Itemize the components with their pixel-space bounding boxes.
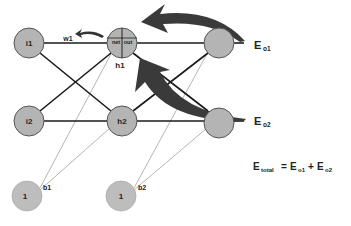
svg-text:o1: o1	[263, 45, 271, 52]
node-o1	[204, 28, 234, 58]
error-label-o1: E o1	[254, 39, 271, 52]
node-i2: i2	[14, 106, 44, 136]
svg-text:=: =	[281, 161, 287, 172]
neural-network-diagram: i1 i2 net out h1 h2 1 b1 1 b2 w1 E o1 E	[0, 0, 351, 226]
svg-text:E: E	[317, 161, 324, 172]
svg-text:o2: o2	[263, 121, 271, 128]
svg-text:h2: h2	[117, 117, 127, 126]
node-o2	[204, 108, 234, 138]
svg-text:i2: i2	[26, 117, 33, 126]
svg-text:+: +	[308, 161, 314, 172]
svg-text:total: total	[261, 167, 274, 173]
svg-text:b1: b1	[43, 184, 51, 191]
svg-text:o1: o1	[298, 167, 306, 173]
w1-arrow-icon	[75, 29, 104, 38]
node-bias-1: 1 b1	[12, 181, 51, 211]
svg-text:E: E	[254, 39, 261, 51]
svg-text:E: E	[254, 115, 261, 127]
svg-text:o2: o2	[325, 167, 333, 173]
total-error-equation: E total = E o1 + E o2	[253, 161, 333, 173]
svg-text:i1: i1	[26, 39, 33, 48]
weight-label-w1: w1	[62, 35, 72, 42]
svg-text:out: out	[124, 39, 133, 45]
node-h2: h2	[107, 106, 137, 136]
svg-text:1: 1	[23, 192, 28, 201]
svg-text:E: E	[253, 161, 260, 172]
svg-text:h1: h1	[115, 61, 125, 70]
node-i1: i1	[14, 28, 44, 58]
svg-text:net: net	[112, 39, 120, 45]
svg-text:E: E	[290, 161, 297, 172]
svg-text:1: 1	[119, 192, 124, 201]
error-label-o2: E o2	[254, 115, 271, 128]
svg-text:b2: b2	[138, 184, 146, 191]
node-bias-2: 1 b2	[106, 181, 146, 211]
node-h1: net out h1	[107, 28, 137, 70]
